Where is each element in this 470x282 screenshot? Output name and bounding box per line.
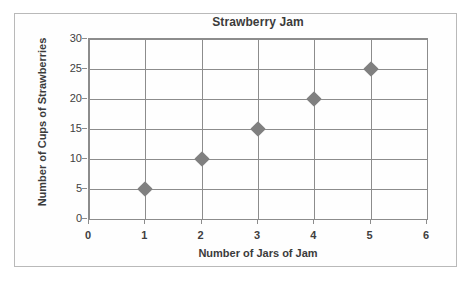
- y-axis-tick-label: 30: [56, 32, 82, 44]
- y-axis-tick-mark: [82, 218, 87, 219]
- x-axis-tick-label: 5: [358, 229, 382, 241]
- x-axis-tick-label: 3: [245, 229, 269, 241]
- y-axis-title: Number of Cups of Strawberries: [36, 27, 48, 217]
- x-axis-tick-mark: [370, 219, 371, 224]
- plot-area: [88, 38, 428, 220]
- chart-title: Strawberry Jam: [88, 15, 428, 29]
- y-axis-tick-mark: [82, 98, 87, 99]
- y-axis-tick-label: 5: [56, 182, 82, 194]
- y-axis-tick-labels: 051015202530: [52, 38, 82, 220]
- data-point-marker: [250, 121, 266, 137]
- y-axis-tick-mark: [82, 68, 87, 69]
- x-axis-tick-mark: [144, 219, 145, 224]
- x-axis-title: Number of Jars of Jam: [88, 247, 428, 259]
- gridline-vertical: [89, 39, 90, 219]
- y-axis-tick-label: 0: [56, 212, 82, 224]
- gridline-vertical: [202, 39, 203, 219]
- data-point-marker: [363, 61, 379, 77]
- y-axis-tick-label: 25: [56, 62, 82, 74]
- x-axis-tick-mark: [88, 219, 89, 224]
- y-axis-tick-label: 10: [56, 152, 82, 164]
- x-axis-tick-label: 0: [76, 229, 100, 241]
- x-axis-tick-mark: [257, 219, 258, 224]
- data-point-marker: [138, 181, 154, 197]
- gridline-vertical: [314, 39, 315, 219]
- x-axis-tick-label: 1: [132, 229, 156, 241]
- gridline-horizontal: [89, 219, 427, 220]
- x-axis-tick-label: 2: [189, 229, 213, 241]
- gridline-vertical: [427, 39, 428, 219]
- data-point-marker: [194, 151, 210, 167]
- y-axis-tick-mark: [82, 128, 87, 129]
- x-axis-tick-labels: 0123456: [88, 229, 428, 245]
- x-axis-tick-label: 6: [414, 229, 438, 241]
- y-axis-tick-label: 15: [56, 122, 82, 134]
- x-axis-tick-label: 4: [301, 229, 325, 241]
- y-axis-tick-mark: [82, 38, 87, 39]
- y-axis-tick-label: 20: [56, 92, 82, 104]
- chart-page: Strawberry Jam 051015202530 0123456 Numb…: [0, 0, 470, 282]
- x-axis-tick-mark: [201, 219, 202, 224]
- data-point-marker: [307, 91, 323, 107]
- x-axis-tick-mark: [426, 219, 427, 224]
- y-axis-tick-mark: [82, 188, 87, 189]
- x-axis-tick-mark: [313, 219, 314, 224]
- y-axis-tick-mark: [82, 158, 87, 159]
